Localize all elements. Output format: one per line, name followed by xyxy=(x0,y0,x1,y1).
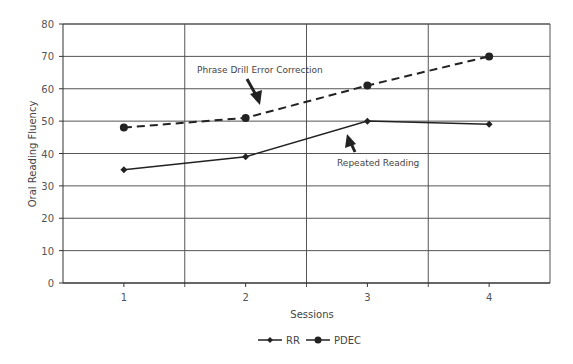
y-tick-label: 0 xyxy=(48,278,54,289)
legend-label: PDEC xyxy=(334,335,361,346)
x-tick-label: 4 xyxy=(486,292,492,303)
circle-marker-icon xyxy=(242,114,250,122)
x-tick-label: 2 xyxy=(242,292,248,303)
y-tick-label: 10 xyxy=(41,246,54,257)
y-tick-label: 70 xyxy=(41,51,54,62)
diamond-marker-icon xyxy=(364,118,371,125)
legend-label: RR xyxy=(286,335,300,346)
legend: RRPDEC xyxy=(258,335,361,346)
diamond-marker-icon xyxy=(267,337,273,343)
x-axis-title: Sessions xyxy=(290,309,333,320)
y-tick-label: 50 xyxy=(41,116,54,127)
axes xyxy=(59,24,550,287)
arrow-icon xyxy=(247,79,262,105)
diamond-marker-icon xyxy=(486,121,493,128)
circle-marker-icon xyxy=(363,82,371,90)
diamond-marker-icon xyxy=(242,153,249,160)
vertical-gridlines xyxy=(185,24,550,287)
legend-item-rr: RR xyxy=(258,335,300,346)
x-tick-label: 1 xyxy=(121,292,127,303)
y-axis-tick-labels: 01020304050607080 xyxy=(41,19,54,289)
y-tick-label: 40 xyxy=(41,149,54,160)
circle-marker-icon xyxy=(120,124,128,132)
legend-item-pdec: PDEC xyxy=(306,335,361,346)
circle-marker-icon xyxy=(485,52,493,60)
x-tick-label: 3 xyxy=(364,292,370,303)
line-chart: 01020304050607080 1234 Oral Reading Flue… xyxy=(0,0,573,364)
annotation-pdec: Phrase Drill Error Correction xyxy=(197,65,323,75)
arrow-icon xyxy=(345,134,356,152)
chart-canvas: 01020304050607080 1234 Oral Reading Flue… xyxy=(0,0,573,364)
diamond-marker-icon xyxy=(120,166,127,173)
annotation-rr: Repeated Reading xyxy=(337,158,419,168)
circle-marker-icon xyxy=(315,337,322,344)
y-tick-label: 60 xyxy=(41,84,54,95)
y-tick-label: 20 xyxy=(41,213,54,224)
y-tick-label: 80 xyxy=(41,19,54,30)
y-axis-title: Oral Reading Fluency xyxy=(27,101,38,208)
x-axis-tick-labels: 1234 xyxy=(121,292,493,303)
y-tick-label: 30 xyxy=(41,181,54,192)
